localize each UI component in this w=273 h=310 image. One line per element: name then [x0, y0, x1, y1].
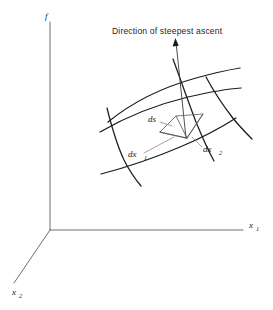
x2-axis — [14, 230, 50, 283]
steepest-ascent-caption: Direction of steepest ascent — [112, 26, 223, 36]
dx2-label-subscript: 2 — [219, 149, 223, 156]
gradient-surface-figure: Direction of steepest ascent ds dx 1 dx … — [0, 0, 273, 310]
figure-root: Direction of steepest ascent ds dx 1 dx … — [0, 0, 273, 310]
dx1-label: dx — [128, 149, 137, 159]
ds-vector — [176, 116, 187, 138]
ds-leader — [160, 122, 172, 126]
x2-axis-label: x — [11, 287, 16, 297]
x2-axis-label-subscript: 2 — [19, 292, 23, 299]
ascent-arrow-head — [173, 38, 179, 46]
mesh-curve-u-3 — [101, 118, 236, 174]
dx1-leader — [144, 137, 174, 153]
dx1-label-subscript: 1 — [144, 154, 147, 161]
ds-label: ds — [148, 114, 157, 124]
dx2-leader — [192, 137, 202, 147]
parallelogram-face — [160, 114, 203, 138]
mesh-curve-u-1 — [108, 68, 240, 122]
f-axis-label: f — [45, 11, 49, 21]
x1-axis-label-subscript: 1 — [256, 225, 259, 232]
mesh-curve-v-3 — [206, 77, 252, 139]
surface-mesh-group — [100, 59, 252, 186]
x1-axis-label: x — [248, 220, 253, 230]
dx2-label: dx — [203, 144, 212, 154]
leader-lines-group — [144, 122, 202, 153]
differential-parallelogram — [160, 114, 203, 138]
